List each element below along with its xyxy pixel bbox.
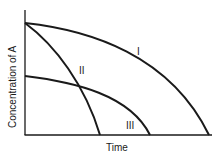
curve-label-I: I	[137, 46, 140, 57]
curve-label-II: II	[79, 65, 85, 76]
concentration-time-chart: I II III Time Concentration of A	[0, 0, 217, 158]
curve-I	[25, 23, 209, 135]
y-axis-title: Concentration of A	[7, 45, 18, 128]
curve-II	[25, 23, 100, 135]
curve-label-III: III	[126, 120, 134, 131]
x-axis-title: Time	[106, 142, 128, 153]
